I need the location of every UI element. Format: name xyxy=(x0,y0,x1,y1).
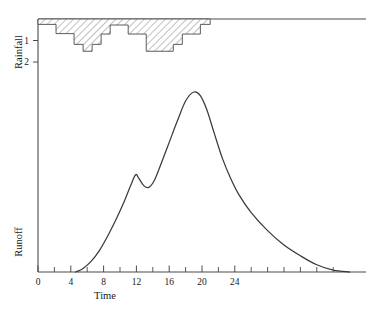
x-tick-label: 12 xyxy=(132,277,142,287)
x-axis-tick-labels: 04812162024 xyxy=(36,277,240,287)
x-tick-label: 20 xyxy=(197,277,207,287)
x-tick-label: 4 xyxy=(68,277,73,287)
x-tick-label: 8 xyxy=(101,277,106,287)
x-tick-label: 0 xyxy=(36,277,41,287)
rainfall-y-ticks: 12 xyxy=(24,36,38,68)
x-tick-label: 16 xyxy=(164,277,174,287)
runoff-axis-title: Runoff xyxy=(13,227,24,257)
x-tick-label: 24 xyxy=(230,277,240,287)
rainfall-bar-series xyxy=(38,19,210,51)
rainfall-tick-label: 1 xyxy=(24,36,29,46)
x-axis-title: Time xyxy=(94,290,116,301)
chart-canvas: 12 04812162024 Rainfall Runoff Time xyxy=(0,0,372,316)
runoff-curve-group xyxy=(76,92,350,272)
hydrograph-figure: 12 04812162024 Rainfall Runoff Time xyxy=(0,0,372,316)
rainfall-bars xyxy=(38,19,210,51)
runoff-curve xyxy=(76,92,350,272)
rainfall-tick-label: 2 xyxy=(24,57,29,67)
rainfall-axis-title: Rainfall xyxy=(13,35,24,69)
